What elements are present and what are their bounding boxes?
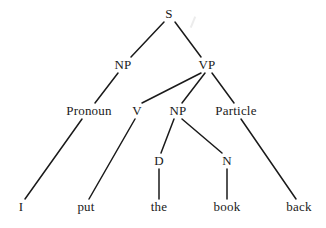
- tree-edge-particle-back: [241, 119, 296, 199]
- syntax-tree-diagram: SNPVPPronounVNPParticleDNIputthebookback: [0, 0, 326, 228]
- tree-edges: [0, 0, 326, 228]
- tree-edge-vp-v: [142, 73, 201, 103]
- tree-edge-np2-n: [182, 119, 222, 153]
- tree-node-vp: VP: [198, 57, 215, 73]
- tree-edge-np2-d: [161, 119, 174, 153]
- tree-edge-pronoun-i: [25, 119, 82, 199]
- tree-leaf-book: book: [214, 199, 241, 215]
- tree-leaf-put: put: [77, 199, 94, 215]
- tree-edge-s-vp: [175, 22, 201, 57]
- tree-node-np2: NP: [169, 103, 186, 119]
- tree-node-s: S: [165, 6, 172, 22]
- tree-edge-v-put: [89, 119, 135, 199]
- tree-edge-s-np1: [131, 22, 164, 57]
- tree-node-v: V: [132, 103, 142, 119]
- tree-leaf-the: the: [151, 199, 167, 215]
- tree-edge-vp-particle: [212, 73, 234, 103]
- tree-node-np1: NP: [114, 57, 131, 73]
- tree-leaf-back: back: [286, 199, 311, 215]
- tree-node-d: D: [154, 153, 164, 169]
- tree-edge-np1-pronoun: [95, 73, 118, 103]
- tree-node-pronoun: Pronoun: [66, 103, 111, 119]
- tree-leaf-i: I: [19, 199, 24, 215]
- tree-node-particle: Particle: [215, 103, 256, 119]
- tree-node-n: N: [222, 153, 232, 169]
